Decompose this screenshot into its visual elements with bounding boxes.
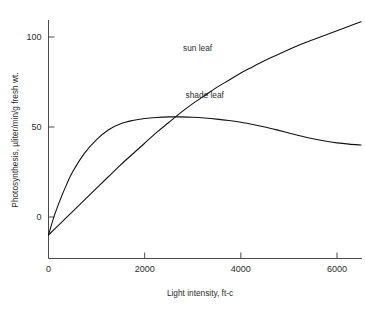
x-tick-label-2000: 2000 xyxy=(135,264,155,274)
series-annotations-group: sun leafshade leaf xyxy=(183,43,225,100)
x-axis-title: Light intensity, ft-c xyxy=(167,288,233,298)
chart-canvas: 050100 0200040006000 sun leafshade leaf … xyxy=(0,0,365,309)
y-tick-label-50: 50 xyxy=(31,122,41,132)
x-tick-label-0: 0 xyxy=(46,264,51,274)
y-axis-title: Photosynthesis, µliter/min/g fresh wt. xyxy=(10,72,20,207)
x-axis-tick-labels: 0200040006000 xyxy=(46,264,347,274)
y-tick-label-0: 0 xyxy=(36,212,41,222)
y-tick-label-100: 100 xyxy=(26,32,41,42)
data-curves-group xyxy=(49,22,362,235)
series-label-sun-leaf: sun leaf xyxy=(183,43,213,53)
y-axis-tick-labels: 050100 xyxy=(26,32,41,222)
photosynthesis-light-response-chart: 050100 0200040006000 sun leafshade leaf … xyxy=(0,0,365,309)
x-axis-ticks xyxy=(49,253,338,259)
x-tick-label-4000: 4000 xyxy=(231,264,251,274)
y-axis-ticks xyxy=(49,37,55,217)
x-tick-label-6000: 6000 xyxy=(327,264,347,274)
curve-shade-leaf xyxy=(49,117,362,235)
series-label-shade-leaf: shade leaf xyxy=(186,90,225,100)
curve-sun-leaf xyxy=(49,22,362,235)
